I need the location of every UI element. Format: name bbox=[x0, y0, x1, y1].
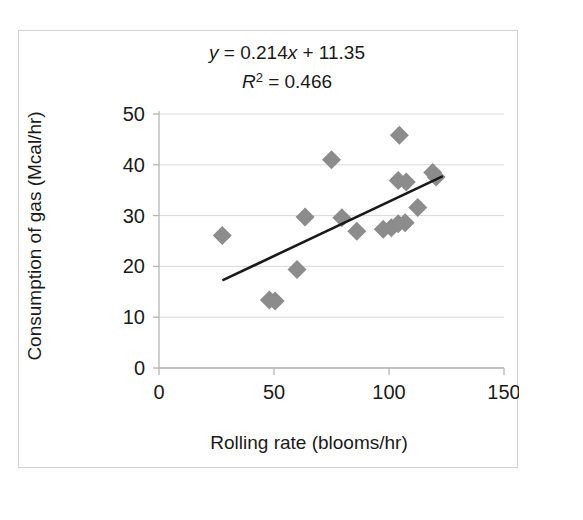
r-exponent: 2 bbox=[256, 70, 263, 85]
axis-lines bbox=[159, 111, 504, 368]
data-point bbox=[322, 150, 341, 169]
x-tick-labels: 050100150 bbox=[153, 381, 519, 403]
x-tick-marks bbox=[159, 368, 504, 375]
data-point bbox=[347, 222, 366, 241]
trendline-segment bbox=[223, 177, 442, 280]
y-tick-label-20: 20 bbox=[123, 255, 145, 277]
y-tick-label-0: 0 bbox=[134, 357, 145, 379]
regression-equation-label: y = 0.214x + 11.35 bbox=[207, 42, 365, 63]
x-tick-label-0: 0 bbox=[153, 381, 164, 403]
data-point-markers bbox=[213, 126, 446, 311]
chart-container: y = 0.214x + 11.35 R2 = 0.466 0102030405… bbox=[18, 30, 518, 468]
x-tick-label-150: 150 bbox=[487, 381, 519, 403]
y-axis-title: Consumption of gas (Mcal/hr) bbox=[24, 111, 45, 360]
data-point bbox=[408, 198, 427, 217]
scatter-plot: y = 0.214x + 11.35 R2 = 0.466 0102030405… bbox=[19, 31, 519, 467]
y-tick-label-50: 50 bbox=[123, 103, 145, 125]
x-tick-label-100: 100 bbox=[372, 381, 405, 403]
y-tick-label-30: 30 bbox=[123, 205, 145, 227]
eq-tail: + 11.35 bbox=[297, 42, 365, 63]
eq-body: = 0.214 bbox=[219, 42, 289, 63]
data-point bbox=[390, 126, 409, 145]
data-point bbox=[213, 226, 232, 245]
trendline bbox=[223, 177, 442, 280]
x-tick-label-50: 50 bbox=[263, 381, 285, 403]
r-symbol: R bbox=[242, 71, 256, 92]
data-point bbox=[288, 260, 307, 279]
y-tick-labels: 01020304050 bbox=[123, 103, 145, 379]
y-tick-marks bbox=[153, 114, 159, 368]
data-point bbox=[296, 208, 315, 227]
x-axis-title: Rolling rate (blooms/hr) bbox=[210, 432, 407, 453]
r-squared-label: R2 = 0.466 bbox=[242, 70, 332, 92]
y-tick-label-40: 40 bbox=[123, 154, 145, 176]
r-value: = 0.466 bbox=[263, 71, 332, 92]
y-tick-label-10: 10 bbox=[123, 306, 145, 328]
